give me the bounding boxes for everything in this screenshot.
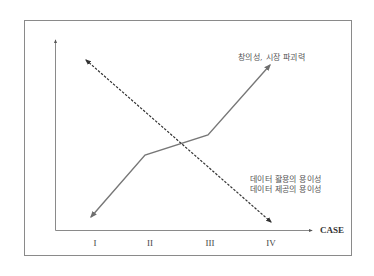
data-ease-line <box>86 60 271 222</box>
x-axis-label: CASE <box>320 225 344 235</box>
data-ease-label: 데이터 활용의 용이성 데이터 제공의 용이성 <box>250 175 321 195</box>
creativity-label: 창의성, 시장 파괴력 <box>238 51 305 62</box>
tick-case-2: II <box>147 238 153 248</box>
tick-case-4: IV <box>266 238 276 248</box>
data-ease-label-line2: 데이터 제공의 용이성 <box>250 185 321 195</box>
diagram-canvas <box>0 0 374 276</box>
data-ease-label-line1: 데이터 활용의 용이성 <box>250 175 321 185</box>
tick-case-3: III <box>206 238 215 248</box>
tick-case-1: I <box>94 238 97 248</box>
